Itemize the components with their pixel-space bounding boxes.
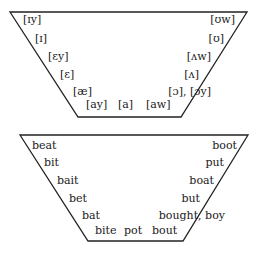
phonetic-back-4: [ʌ] <box>184 69 199 81</box>
phonetic-bottom-3: [aw] <box>146 99 171 111</box>
phonetic-bottom-1: [ay] <box>86 99 107 111</box>
word-front-1: beat <box>32 140 57 152</box>
phonetic-front-1: [ɪy] <box>23 14 41 26</box>
word-back-1: boot <box>212 140 237 152</box>
phonetic-bottom-2: [a] <box>118 99 133 111</box>
phonetic-back-3: [ʌw] <box>187 51 211 63</box>
phonetic-back-5: [ɔ], [ɔy] <box>168 86 211 98</box>
word-back-2: put <box>205 157 224 169</box>
phonetic-back-1: [ʊw] <box>210 14 235 26</box>
word-bottom-3: bout <box>152 225 177 237</box>
phonetic-front-3: [ɛy] <box>48 51 69 63</box>
word-bottom-2: pot <box>124 225 142 237</box>
phonetic-front-5: [æ] <box>73 86 92 98</box>
word-front-3: bait <box>57 175 79 187</box>
word-back-4: but <box>181 193 200 205</box>
word-back-3: boat <box>189 175 214 187</box>
phonetic-back-2: [ʊ] <box>209 33 224 45</box>
word-front-5: bat <box>82 210 100 222</box>
phonetic-front-2: [ɪ] <box>35 33 47 45</box>
word-bottom-1: bite <box>95 225 117 237</box>
word-front-2: bit <box>44 157 59 169</box>
word-back-5: bought, boy <box>159 210 225 222</box>
word-front-4: bet <box>69 193 87 205</box>
phonetic-front-4: [ɛ] <box>60 69 74 81</box>
